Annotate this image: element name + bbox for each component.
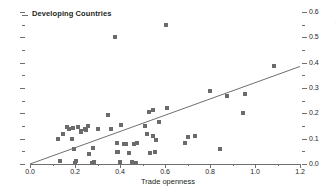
y-tick-left — [20, 113, 25, 114]
data-point — [58, 159, 62, 163]
y-tick-label: 0.2 — [309, 109, 319, 116]
data-point — [115, 141, 119, 145]
data-point — [183, 141, 187, 145]
y-tick-left — [20, 88, 25, 89]
data-point — [272, 64, 276, 68]
data-point — [84, 128, 88, 132]
y-tick-right — [302, 88, 307, 89]
data-point — [241, 111, 245, 115]
y-tick-left — [22, 25, 25, 26]
x-tick-label: 0.6 — [160, 168, 170, 175]
data-point — [86, 124, 90, 128]
scatter-chart: Developing Countries Trade openness Fina… — [0, 0, 336, 194]
y-tick-right — [302, 151, 305, 152]
data-point — [148, 151, 152, 155]
data-point — [113, 35, 117, 39]
x-tick-label: 1.2 — [295, 168, 305, 175]
trend-line — [30, 12, 300, 164]
y-tick-left — [20, 139, 25, 140]
y-tick-left — [22, 101, 25, 102]
data-point — [70, 137, 74, 141]
data-point — [109, 127, 113, 131]
x-tick-label: 0.8 — [205, 168, 215, 175]
data-point — [56, 137, 60, 141]
data-point — [119, 123, 123, 127]
data-point — [72, 147, 76, 151]
x-axis-title: Trade openness — [0, 177, 336, 186]
data-point — [143, 124, 147, 128]
y-tick-left — [20, 63, 25, 64]
y-tick-right — [302, 113, 307, 114]
y-tick-left — [22, 151, 25, 152]
y-tick-label: 0.4 — [309, 59, 319, 66]
data-point — [165, 106, 169, 110]
y-tick-left — [20, 12, 25, 13]
data-point — [157, 120, 161, 124]
y-tick-label: 0.3 — [309, 84, 319, 91]
x-tick-label: 0.2 — [70, 168, 80, 175]
data-point — [106, 113, 110, 117]
data-point — [71, 126, 75, 130]
x-tick — [278, 164, 279, 166]
y-tick-right — [302, 50, 305, 51]
y-tick-label: 0.5 — [309, 33, 319, 40]
data-point — [243, 92, 247, 96]
data-point — [208, 89, 212, 93]
y-tick-left — [22, 126, 25, 127]
data-point — [147, 110, 151, 114]
data-point — [74, 159, 78, 163]
y-tick-right — [302, 101, 305, 102]
y-tick-right — [302, 25, 305, 26]
y-tick-right — [302, 164, 307, 165]
y-tick-label: 0.1 — [309, 135, 319, 142]
data-point — [225, 94, 229, 98]
data-point — [116, 150, 120, 154]
data-point — [218, 147, 222, 151]
y-tick-left — [22, 50, 25, 51]
data-point — [154, 138, 158, 142]
x-tick-label: 0.4 — [115, 168, 125, 175]
y-tick-right — [302, 37, 307, 38]
data-point — [91, 146, 95, 150]
x-tick — [53, 164, 54, 166]
data-point — [61, 132, 65, 136]
data-point — [124, 142, 128, 146]
y-tick-right — [302, 126, 305, 127]
title-marker-tick — [22, 15, 28, 16]
y-tick-right — [302, 12, 307, 13]
y-tick-right — [302, 139, 307, 140]
data-point — [164, 23, 168, 27]
data-point — [145, 132, 149, 136]
y-tick-right — [302, 63, 307, 64]
y-tick-label: 0.6 — [309, 8, 319, 15]
x-tick — [98, 164, 99, 166]
x-tick-label: 1.0 — [250, 168, 260, 175]
y-tick-left — [22, 75, 25, 76]
plot-area — [30, 12, 300, 164]
data-point — [186, 135, 190, 139]
x-tick — [233, 164, 234, 166]
data-point — [193, 134, 197, 138]
data-point — [127, 151, 131, 155]
y-tick-left — [20, 37, 25, 38]
data-point — [153, 150, 157, 154]
data-point — [87, 152, 91, 156]
data-point — [96, 127, 100, 131]
x-tick-label: 0.0 — [25, 168, 35, 175]
x-tick — [188, 164, 189, 166]
data-point — [151, 108, 155, 112]
x-tick — [143, 164, 144, 166]
y-tick-label: 0.0 — [309, 160, 319, 167]
y-tick-right — [302, 75, 305, 76]
y-tick-left — [20, 164, 25, 165]
data-point — [135, 141, 139, 145]
